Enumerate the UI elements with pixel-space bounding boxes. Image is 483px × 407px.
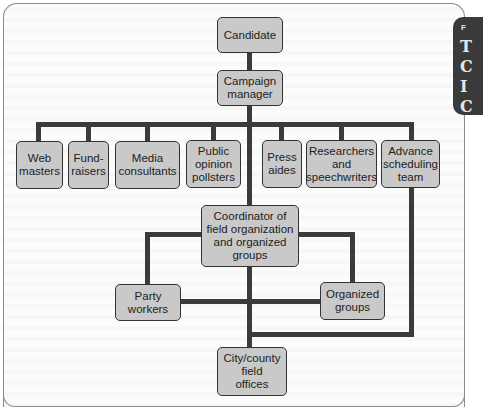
connector-coord-left-down [145, 232, 150, 284]
node-label: Party workers [128, 290, 168, 316]
node-label: Press aides [267, 151, 296, 177]
connector-web-masters [36, 122, 41, 141]
side-tab: F T C I C [453, 17, 483, 115]
node-label: Public opinion pollsters [192, 145, 235, 184]
connector-coord-right [299, 232, 355, 237]
node-web-masters: Web masters [16, 141, 63, 189]
side-tab-letter: C [460, 59, 473, 75]
node-label: Researchers and speechwriters [306, 145, 377, 184]
connector-researchers [339, 122, 344, 141]
connector-fund-raisers [86, 122, 91, 141]
connector-candidate-manager [247, 53, 252, 70]
node-label: Fund- raisers [71, 152, 106, 178]
connector-pollsters [211, 122, 216, 141]
node-party-workers: Party workers [115, 284, 181, 321]
connector-coord-left [145, 232, 201, 237]
node-label: Advance scheduling team [383, 145, 438, 184]
node-public-opinion-pollsters: Public opinion pollsters [186, 140, 241, 188]
node-organized-groups: Organized groups [320, 282, 385, 320]
node-label: Coordinator of field organization and or… [207, 210, 294, 262]
connector-press [279, 122, 284, 141]
node-label: City/county field offices [224, 352, 281, 391]
side-tab-letter: T [460, 39, 472, 55]
connector-staff-bar [36, 122, 414, 127]
node-candidate: Candidate [217, 17, 283, 53]
node-fund-raisers: Fund- raisers [68, 141, 109, 189]
node-press-aides: Press aides [262, 140, 302, 188]
node-label: Campaign manager [224, 75, 276, 101]
node-label: Web masters [19, 152, 60, 178]
connector-coord-right-down [350, 232, 355, 282]
connector-advance-to-offices [247, 332, 414, 337]
connector-party-organized [180, 299, 320, 304]
side-tab-letter: I [460, 79, 467, 95]
node-label: Candidate [224, 29, 276, 42]
node-advance-scheduling-team: Advance scheduling team [381, 140, 440, 188]
connector-media [145, 122, 150, 141]
node-researchers-speechwriters: Researchers and speechwriters [306, 140, 377, 188]
node-label: Media consultants [118, 152, 176, 178]
node-campaign-manager: Campaign manager [217, 70, 283, 106]
node-media-consultants: Media consultants [115, 141, 180, 189]
node-label: Organized groups [326, 288, 379, 314]
node-city-county-offices: City/county field offices [217, 347, 287, 396]
side-tab-letter: C [460, 99, 473, 115]
side-tab-small-letter: F [461, 23, 466, 32]
node-coordinator: Coordinator of field organization and or… [201, 205, 299, 267]
